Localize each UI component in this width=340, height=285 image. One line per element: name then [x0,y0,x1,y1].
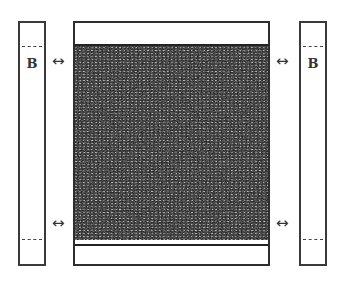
right-strip-bottom-dash [303,239,323,240]
center-panel [73,21,270,266]
right-strip-top-dash [303,46,323,47]
arrow-right-top-icon: ↔ [276,54,289,69]
right-strip-label: B [301,56,325,71]
stipple-texture-icon [75,46,268,240]
left-strip-top-dash [22,46,42,47]
stippled-region [75,44,268,246]
arrow-right-bottom-icon: ↔ [276,216,289,231]
arrow-left-top-icon: ↔ [52,54,65,69]
left-strip: B [18,21,46,266]
left-strip-bottom-dash [22,239,42,240]
arrow-left-bottom-icon: ↔ [52,216,65,231]
right-strip: B [299,21,327,266]
left-strip-label: B [20,56,44,71]
